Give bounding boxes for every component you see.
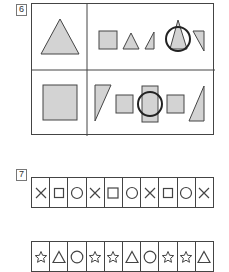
square-icon (161, 186, 175, 200)
question-7-label: 7 (16, 169, 27, 181)
question-7-row-1 (31, 177, 214, 208)
cell[interactable] (178, 242, 196, 271)
cell[interactable] (196, 242, 213, 271)
cross-icon (143, 186, 157, 200)
option-square-icon[interactable] (167, 95, 184, 113)
triangle-icon (52, 250, 66, 264)
circle-icon (143, 250, 157, 264)
cell[interactable] (32, 242, 50, 271)
circle-icon (70, 250, 84, 264)
cell[interactable] (68, 242, 86, 271)
option-inverted-right-triangle-icon[interactable] (193, 31, 204, 51)
triangle-icon (125, 250, 139, 264)
cross-icon (197, 186, 211, 200)
question-7-row-2 (31, 241, 214, 272)
cross-icon (88, 186, 102, 200)
cell[interactable] (87, 242, 105, 271)
cell[interactable] (105, 178, 123, 207)
circle-icon (125, 186, 139, 200)
cell[interactable] (32, 178, 50, 207)
cell[interactable] (87, 178, 105, 207)
cell[interactable] (68, 178, 86, 207)
question-6-figures (32, 4, 215, 136)
option-right-triangle-icon[interactable] (145, 32, 154, 49)
cell[interactable] (196, 178, 213, 207)
cell[interactable] (159, 178, 177, 207)
cell[interactable] (50, 178, 68, 207)
circle-icon (70, 186, 84, 200)
star-icon (161, 250, 175, 264)
option-square-icon[interactable] (99, 31, 117, 49)
cell[interactable] (105, 242, 123, 271)
reference-square-icon (43, 85, 77, 120)
cell[interactable] (141, 178, 159, 207)
triangle-icon (197, 250, 211, 264)
star-icon (179, 250, 193, 264)
cross-icon (34, 186, 48, 200)
cell[interactable] (123, 178, 141, 207)
option-square-icon[interactable] (116, 95, 133, 113)
option-small-triangle-icon[interactable] (123, 33, 139, 49)
star-icon (34, 250, 48, 264)
question-6-label: 6 (16, 4, 27, 16)
star-icon (106, 250, 120, 264)
reference-triangle-icon (41, 19, 79, 54)
cell[interactable] (141, 242, 159, 271)
star-icon (88, 250, 102, 264)
option-right-triangle-icon[interactable] (189, 86, 204, 121)
cell[interactable] (123, 242, 141, 271)
circle-icon (179, 186, 193, 200)
question-6-grid (31, 3, 214, 135)
square-icon (52, 186, 66, 200)
square-icon (106, 186, 120, 200)
cell[interactable] (50, 242, 68, 271)
option-circled-triangle-icon[interactable] (166, 20, 190, 51)
option-circled-rectangle-icon[interactable] (138, 86, 162, 122)
cell[interactable] (159, 242, 177, 271)
cell[interactable] (178, 178, 196, 207)
option-inverted-right-triangle-icon[interactable] (95, 85, 111, 121)
